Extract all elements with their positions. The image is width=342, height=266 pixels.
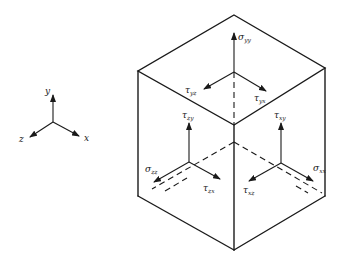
y-axis-label: y [44,86,51,96]
sigma-zz-arrow [154,162,189,182]
right-face-stresses: τxy τxz σxx [243,110,327,196]
z-axis-label: z [18,134,24,144]
tau-yx-label: τyx [254,93,266,105]
cube-outline [138,15,325,250]
z-axis-arrow [30,122,53,137]
stress-cube-diagram: y z x σyy τyz τyx τzy σzz τzx [0,0,342,266]
tau-yx-arrow [234,72,266,91]
sigma-yy-label: σyy [238,32,252,44]
left-face-stresses: τzy σzz τzx [145,110,220,194]
hidden-edges [152,72,322,193]
tau-yz-label: τyz [185,85,197,97]
tau-xz-label: τxz [243,185,255,196]
coordinate-axes: y z x [18,86,89,144]
tau-yz-arrow [204,72,234,89]
tau-zx-arrow [189,162,220,179]
tau-xy-label: τxy [274,110,286,122]
x-axis-label: x [84,133,89,143]
sigma-zz-label: σzz [145,164,158,175]
x-axis-arrow [53,122,79,136]
tau-xz-arrow [249,163,281,181]
top-face-stresses: σyy τyz τyx [185,32,266,105]
tau-zy-label: τzy [182,110,194,122]
tau-zx-label: τzx [203,183,215,194]
